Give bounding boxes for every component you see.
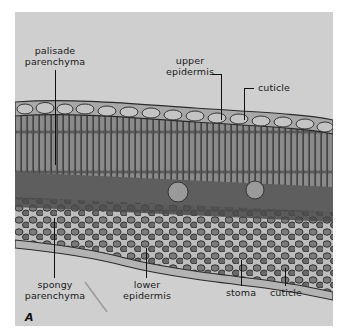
label-line: epidermis [118,290,176,301]
label-line: lower [118,279,176,290]
label-line: upper [162,55,218,66]
label-line: palisade [22,45,88,56]
label-text: cuticle [270,287,302,298]
label-line: epidermis [162,66,218,77]
label-text: stoma [226,287,256,298]
label-line: parenchyma [22,290,88,301]
leader-line-spongy [54,218,55,278]
label-spongy-parenchyma: spongy parenchyma [22,279,88,301]
panel-letter: A [25,311,34,324]
label-text: cuticle [258,82,290,93]
label-palisade-parenchyma: palisade parenchyma [22,45,88,67]
leader-line-palisade [55,70,56,165]
label-upper-epidermis: upper epidermis [162,55,218,77]
label-lower-epidermis: lower epidermis [118,279,176,301]
leader-line-upper-epidermis-v [221,74,222,120]
label-cuticle-bottom: cuticle [270,287,302,298]
label-line: spongy [22,279,88,290]
leader-line-cuticle-top-v [244,88,245,120]
leader-line-lower-epidermis [146,248,147,278]
leader-line-cuticle-bottom [285,268,286,286]
leader-line-cuticle-top-h [244,88,254,89]
label-cuticle-top: cuticle [258,82,290,93]
label-stoma: stoma [226,287,256,298]
leader-line-stoma [241,260,242,286]
label-line: parenchyma [22,56,88,67]
